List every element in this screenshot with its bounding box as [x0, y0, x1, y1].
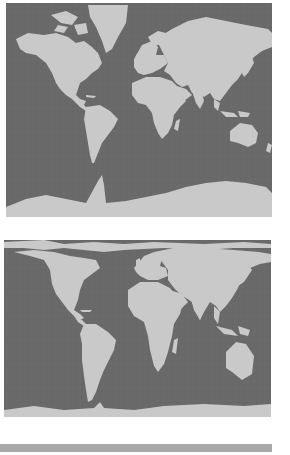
- mercator-world-map: [6, 3, 272, 217]
- bottom-bar: [0, 444, 272, 452]
- equal-area-map-graphic: [4, 240, 271, 417]
- mercator-map-graphic: [6, 3, 272, 217]
- equal-area-world-map: [4, 240, 271, 417]
